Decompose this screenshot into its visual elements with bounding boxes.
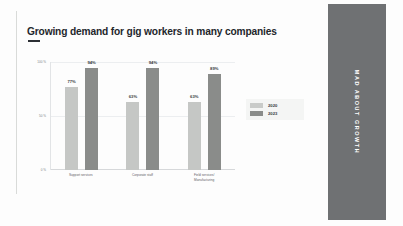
category-label-line: Corporate staff (114, 173, 170, 178)
legend-swatch-icon (250, 103, 263, 108)
bar-wrap: 63% (188, 62, 201, 170)
plot-area: 77% 94% 63% (50, 62, 235, 170)
bar-2020-corporate-staff[interactable]: 63% (126, 102, 139, 170)
legend-swatch-icon (250, 111, 263, 116)
y-axis-tick-100: 100 % (37, 60, 46, 64)
chart-legend: 2020 2023 (246, 99, 304, 120)
bar-value-label: 94% (149, 60, 157, 65)
legend-label: 2023 (268, 111, 277, 116)
legend-item-2020[interactable]: 2020 (250, 103, 300, 108)
legend-label: 2020 (268, 103, 277, 108)
bar-value-label: 94% (87, 60, 95, 65)
bar-group-field-services-manufacturing: 63% 89% (188, 62, 221, 170)
title-underline-accent (28, 40, 40, 42)
bar-groups: 77% 94% 63% (51, 62, 235, 170)
bar-value-label: 89% (210, 66, 218, 71)
slide: Growing demand for gig workers in many c… (0, 0, 403, 226)
bar-wrap: 77% (65, 62, 78, 170)
y-axis-tick-0: 0 % (41, 168, 46, 172)
side-banner: MAD ABOUT GROWTH (328, 4, 386, 220)
bar-wrap: 89% (208, 62, 221, 170)
y-axis: 100 % 50 % 0 % (30, 62, 48, 170)
bar-value-label: 77% (67, 79, 75, 84)
bar-value-label: 63% (129, 94, 137, 99)
bar-2023-support-services[interactable]: 94% (85, 68, 98, 170)
category-label-support-services: Support services (53, 173, 109, 182)
category-label-line: Manufacturing (176, 178, 232, 183)
side-banner-text: MAD ABOUT GROWTH (354, 70, 360, 154)
bar-wrap: 94% (85, 62, 98, 170)
bar-wrap: 94% (146, 62, 159, 170)
category-label-corporate-staff: Corporate staff (114, 173, 170, 182)
bar-2020-field-services-manufacturing[interactable]: 63% (188, 102, 201, 170)
category-label-field-services-manufacturing: Field services/ Manufacturing (176, 173, 232, 182)
bar-2020-support-services[interactable]: 77% (65, 87, 78, 170)
left-accent-rule (16, 11, 17, 194)
bar-wrap: 63% (126, 62, 139, 170)
category-label-line: Support services (53, 173, 109, 178)
bar-2023-corporate-staff[interactable]: 94% (146, 68, 159, 170)
legend-item-2023[interactable]: 2023 (250, 111, 300, 116)
bar-chart: 100 % 50 % 0 % 77% 94% (30, 62, 235, 170)
bar-group-support-services: 77% 94% (65, 62, 98, 170)
bar-value-label: 63% (190, 94, 198, 99)
page-title: Growing demand for gig workers in many c… (27, 26, 277, 37)
y-axis-tick-50: 50 % (39, 114, 46, 118)
category-axis: Support services Corporate staff Field s… (50, 173, 235, 182)
bar-2023-field-services-manufacturing[interactable]: 89% (208, 74, 221, 170)
bar-group-corporate-staff: 63% 94% (126, 62, 159, 170)
